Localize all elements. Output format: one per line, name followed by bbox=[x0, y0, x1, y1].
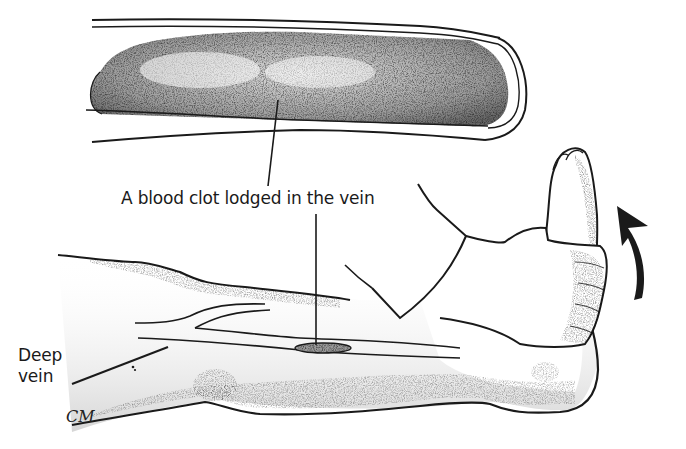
illustration-svg bbox=[0, 0, 686, 449]
blood-clot-texture bbox=[297, 344, 349, 352]
leader-dot bbox=[132, 366, 135, 369]
deep-vein-label-line2: vein bbox=[18, 366, 62, 387]
deep-vein-label-line1: Deep bbox=[18, 345, 62, 366]
vein-wall-bottom-outer bbox=[92, 130, 485, 142]
artist-signature: CM bbox=[66, 407, 95, 426]
magnified-vein bbox=[86, 19, 526, 142]
leader-dot bbox=[134, 369, 136, 371]
deep-vein-label: Deep vein bbox=[18, 345, 62, 387]
clot-label: A blood clot lodged in the vein bbox=[121, 188, 374, 209]
upward-curved-arrow-icon bbox=[617, 206, 648, 300]
ankle-stipple bbox=[531, 362, 559, 382]
illustration-stage: A blood clot lodged in the vein Deep vei… bbox=[0, 0, 686, 449]
clot-highlight bbox=[140, 52, 260, 88]
forearm-line bbox=[345, 265, 372, 288]
clot-highlight bbox=[265, 56, 375, 88]
knee-stipple bbox=[193, 369, 237, 401]
